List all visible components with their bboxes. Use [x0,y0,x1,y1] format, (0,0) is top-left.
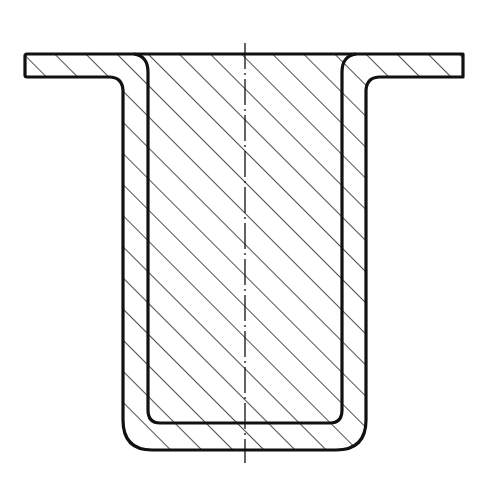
section-hatch [0,0,502,484]
cross-section-drawing [0,0,502,484]
